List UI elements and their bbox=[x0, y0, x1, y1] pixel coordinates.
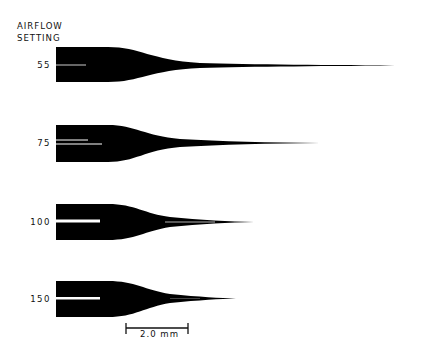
profile-75 bbox=[56, 125, 320, 162]
profile-150 bbox=[56, 281, 236, 317]
profiles-diagram bbox=[0, 0, 427, 359]
profile-55 bbox=[56, 47, 410, 82]
scale-bar-label: 2.0 mm bbox=[140, 328, 179, 339]
profile-100 bbox=[56, 204, 254, 240]
